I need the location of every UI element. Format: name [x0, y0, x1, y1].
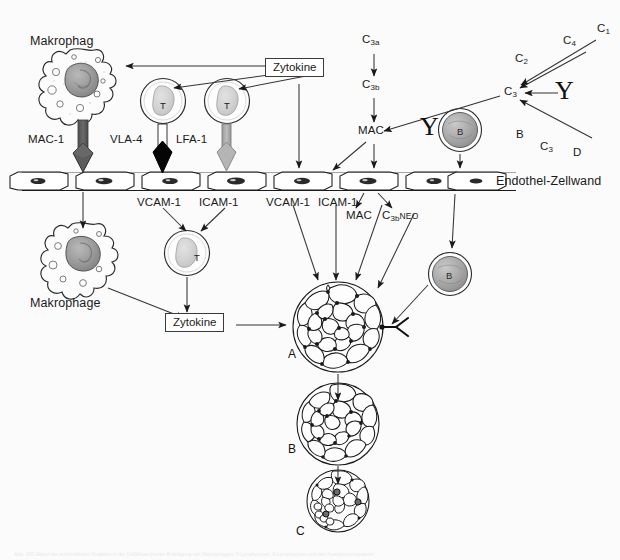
vcam1-label-left: VCAM-1 [137, 196, 181, 208]
zytokine-box-bottom[interactable]: Zytokine [165, 313, 224, 332]
b-cell-bottom-label: B [446, 270, 452, 281]
cluster-a-label: A [288, 347, 296, 361]
vcam1-label-right: VCAM-1 [266, 196, 310, 208]
zytokine-box-top[interactable]: Zytokine [265, 58, 324, 77]
b-cell-top-label: B [457, 126, 463, 137]
icam1-label-right: ICAM-1 [318, 196, 358, 208]
vla4-receptor [153, 124, 172, 173]
cell-cluster-a [293, 282, 408, 372]
t-cell-extravasated [165, 231, 210, 276]
antibody-pathway-icon: Y [555, 78, 574, 104]
icam1-label-left: ICAM-1 [199, 196, 239, 208]
macrophage-bottom-label: Makrophage [30, 296, 101, 310]
figure-canvas: Makrophag Makrophage MAC-1 VLA-4 LFA-1 V… [0, 0, 620, 560]
cluster-c-label: C [296, 524, 305, 538]
mac-above-wall-label: MAC [358, 124, 384, 136]
lfa1-label: LFA-1 [176, 133, 207, 145]
macrophage-top-label: Makrophag [30, 34, 93, 48]
cluster-b-label: B [288, 442, 296, 456]
c3bneo-label: C3bNEO [382, 209, 419, 223]
factor-d-label: D [573, 146, 581, 158]
c3-alt-label: C3 [540, 140, 553, 154]
mac1-label: MAC-1 [28, 133, 64, 145]
c3-center-label: C3 [504, 85, 517, 99]
t-cell-3-label: T [194, 252, 200, 263]
t-cell-2-label: T [224, 100, 230, 111]
diagram-artwork [0, 0, 620, 560]
vla4-label: VLA-4 [110, 133, 142, 145]
c3a-label: C3a [362, 33, 380, 47]
figure-caption: Abb. 000 Ablauf der entzündlichen Reakti… [14, 550, 610, 558]
mac1-receptor [73, 120, 93, 172]
antibody-free-icon: Y [420, 114, 439, 140]
c2-label: C2 [515, 52, 528, 66]
macrophage-bottom-cell [41, 223, 118, 300]
c1-label: C1 [597, 22, 610, 36]
c4-label: C4 [563, 34, 576, 48]
lfa1-receptor [217, 124, 236, 171]
c3b-label: C3b [362, 78, 380, 92]
factor-b-label: B [516, 128, 524, 140]
t-cell-1-label: T [160, 100, 166, 111]
mac-below-wall-label: MAC [346, 209, 372, 221]
endothelium-label: Endothel-Zellwand [496, 174, 601, 188]
macrophage-top-cell [39, 49, 116, 126]
